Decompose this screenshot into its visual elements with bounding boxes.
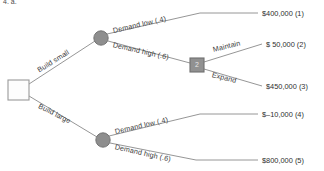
outcome-payoff-3: $450,000 (3): [266, 82, 308, 91]
chance-node-build-large[interactable]: [96, 133, 110, 147]
decision-tree-diagram: 4. a. 2 Build small Build large Demand l…: [0, 0, 324, 171]
outcome-payoff-5: $800,000 (5): [262, 156, 304, 165]
outcome-payoff-2: $ 50,000 (2): [266, 40, 306, 49]
root-decision-node[interactable]: [8, 80, 29, 100]
chance-node-build-small[interactable]: [94, 31, 108, 45]
decision-node-2-label: 2: [195, 61, 199, 68]
edge-build-small: [29, 41, 95, 84]
outcome-payoff-1: $400,000 (1): [262, 9, 304, 18]
outcome-payoff-4: $–10,000 (4): [262, 110, 304, 119]
